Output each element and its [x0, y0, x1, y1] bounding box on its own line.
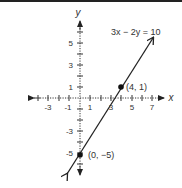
point-0-neg5	[77, 152, 83, 158]
x-tick-label: 7	[150, 103, 155, 112]
y-tick-label: 1	[69, 83, 74, 92]
x-tick-label: -1	[64, 103, 72, 112]
y-axis-label: y	[75, 7, 82, 18]
y-tick-label: -3	[66, 127, 74, 136]
x-axis-label: x	[168, 92, 175, 103]
x-axis: -3 -1 1 3 5 7 x	[34, 92, 175, 112]
x-tick-label: -3	[44, 103, 52, 112]
point-label-4-1: (4, 1)	[126, 82, 147, 92]
x-tick-label: 1	[88, 103, 93, 112]
x-tick-label: 5	[130, 103, 135, 112]
y-tick-label: -5	[66, 149, 74, 158]
point-label-0-neg5: (0, −5)	[88, 150, 114, 160]
y-tick-label: 5	[69, 39, 74, 48]
graph: -3 -1 1 3 5 7 x 5 3 1 -3 -5 y	[0, 0, 182, 188]
y-tick-label: 3	[69, 61, 74, 70]
point-4-1	[118, 84, 124, 90]
y-axis: 5 3 1 -3 -5 y	[66, 7, 83, 175]
equation-label: 3x − 2y = 10	[111, 27, 161, 37]
